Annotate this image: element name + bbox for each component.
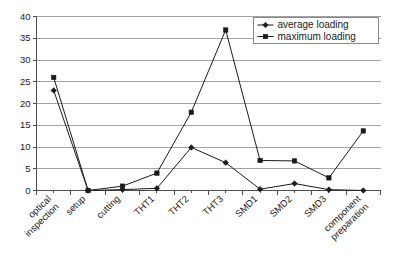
x-tick-label-group: cutting (94, 193, 122, 220)
data-point (51, 88, 57, 94)
x-tick-label-group: componentpreparation (320, 193, 370, 242)
chart-canvas: 0510152025303540opticalinspectionsetupcu… (0, 0, 393, 262)
x-tick-label: THT1 (132, 193, 157, 217)
series-line (54, 30, 364, 191)
line-chart: 0510152025303540opticalinspectionsetupcu… (0, 0, 393, 262)
legend-label: average loading (278, 19, 349, 30)
data-point (292, 159, 296, 163)
data-point (326, 187, 332, 193)
series-line (54, 90, 364, 190)
legend-marker (263, 34, 267, 38)
y-tick-label: 0 (25, 185, 30, 196)
y-tick-label: 25 (20, 76, 31, 87)
y-tick-label: 5 (25, 163, 30, 174)
y-tick-label: 35 (20, 32, 31, 43)
x-tick-label: cutting (94, 193, 122, 220)
x-tick-label-group: SMD3 (302, 193, 329, 219)
x-tick-label: setup (63, 193, 87, 217)
x-tick-label: SMD2 (267, 193, 294, 219)
x-tick-label: THT2 (166, 193, 191, 217)
data-point (120, 184, 124, 188)
x-tick-label-group: THT3 (200, 193, 225, 217)
legend-label: maximum loading (278, 31, 356, 42)
data-point (224, 28, 228, 32)
y-tick-label: 20 (20, 98, 31, 109)
y-tick-label: 40 (20, 11, 31, 22)
data-point (361, 188, 367, 194)
x-tick-label-group: SMD2 (267, 193, 294, 219)
y-tick-label: 10 (20, 141, 31, 152)
data-point (361, 129, 365, 133)
x-tick-label-group: THT2 (166, 193, 191, 217)
data-point (155, 171, 159, 175)
x-tick-label-group: THT1 (132, 193, 157, 217)
data-point (189, 110, 193, 114)
x-tick-label-group: setup (63, 193, 87, 217)
x-axis-labels: opticalinspectionsetupcuttingTHT1THT2THT… (15, 193, 371, 242)
data-point (327, 176, 331, 180)
x-tick-label: SMD1 (233, 193, 260, 219)
x-tick-label: THT3 (200, 193, 225, 217)
x-tick-label: SMD3 (302, 193, 329, 219)
y-tick-label: 15 (20, 119, 31, 130)
series-2 (52, 28, 366, 193)
legend: average loadingmaximum loading (254, 18, 379, 44)
y-tick-label: 30 (20, 54, 31, 65)
data-point (52, 75, 56, 79)
x-tick-label-group: SMD1 (233, 193, 260, 219)
x-tick-label-group: opticalinspection (15, 193, 61, 239)
data-point (292, 181, 298, 187)
data-point (86, 188, 90, 192)
data-point (258, 158, 262, 162)
